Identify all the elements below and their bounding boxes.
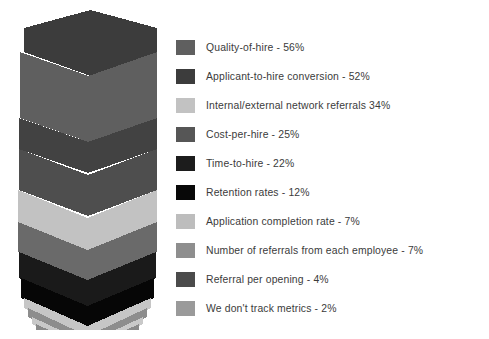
legend-swatch-number-of-referrals-from-each-employee	[176, 243, 195, 258]
legend-label-time-to-hire: Time-to-hire - 22%	[206, 157, 294, 170]
funnel-svg	[18, 10, 163, 330]
legend-row[interactable]: We don't track metrics - 2%	[176, 294, 484, 323]
legend-swatch-retention-rates	[176, 185, 195, 200]
legend-row[interactable]: Internal/external network referrals 34%	[176, 91, 484, 120]
legend-label-applicant-to-hire-conversion: Applicant-to-hire conversion - 52%	[206, 70, 370, 83]
legend-row[interactable]: Quality-of-hire - 56%	[176, 33, 484, 62]
legend-label-internal-external-network-referrals: Internal/external network referrals 34%	[206, 99, 390, 112]
legend-label-referral-per-opening: Referral per opening - 4%	[206, 273, 329, 286]
chart-legend: Quality-of-hire - 56% Applicant-to-hire …	[176, 33, 484, 323]
funnel-graphic	[18, 10, 163, 330]
legend-label-retention-rates: Retention rates - 12%	[206, 186, 310, 199]
legend-row[interactable]: Retention rates - 12%	[176, 178, 484, 207]
legend-swatch-application-completion-rate	[176, 214, 195, 229]
legend-row[interactable]: Cost-per-hire - 25%	[176, 120, 484, 149]
legend-label-cost-per-hire: Cost-per-hire - 25%	[206, 128, 300, 141]
legend-swatch-time-to-hire	[176, 156, 195, 171]
legend-swatch-applicant-to-hire-conversion	[176, 69, 195, 84]
funnel-band-group	[18, 10, 157, 330]
legend-row[interactable]: Referral per opening - 4%	[176, 265, 484, 294]
legend-row[interactable]: Applicant-to-hire conversion - 52%	[176, 62, 484, 91]
legend-swatch-we-dont-track-metrics	[176, 301, 195, 316]
legend-label-we-dont-track-metrics: We don't track metrics - 2%	[206, 302, 337, 315]
legend-row[interactable]: Number of referrals from each employee -…	[176, 236, 484, 265]
funnel-chart-figure: Quality-of-hire - 56% Applicant-to-hire …	[0, 0, 489, 339]
legend-swatch-cost-per-hire	[176, 127, 195, 142]
legend-swatch-internal-external-network-referrals	[176, 98, 195, 113]
legend-label-quality-of-hire: Quality-of-hire - 56%	[206, 41, 304, 54]
legend-swatch-quality-of-hire	[176, 40, 195, 55]
legend-label-application-completion-rate: Application completion rate - 7%	[206, 215, 360, 228]
legend-row[interactable]: Application completion rate - 7%	[176, 207, 484, 236]
legend-label-number-of-referrals-from-each-employee: Number of referrals from each employee -…	[206, 244, 423, 257]
legend-row[interactable]: Time-to-hire - 22%	[176, 149, 484, 178]
legend-swatch-referral-per-opening	[176, 272, 195, 287]
